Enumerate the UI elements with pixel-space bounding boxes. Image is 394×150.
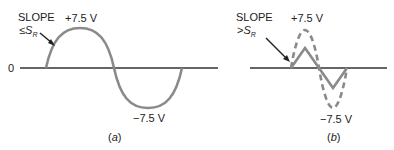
peak-positive-b: +7.5 V bbox=[291, 12, 323, 24]
slope-label-a: SLOPE bbox=[18, 11, 55, 23]
slope-condition-a: ≤SR bbox=[19, 24, 37, 41]
waveform-diagram bbox=[0, 0, 394, 150]
caption-a: (a) bbox=[108, 131, 121, 143]
peak-positive-a: +7.5 V bbox=[65, 12, 97, 24]
zero-label: 0 bbox=[8, 62, 14, 74]
peak-negative-a: −7.5 V bbox=[133, 112, 165, 124]
arrow-b bbox=[266, 38, 286, 58]
slope-condition-b: >SR bbox=[237, 24, 256, 41]
slope-label-b: SLOPE bbox=[236, 11, 273, 23]
peak-negative-b: −7.5 V bbox=[320, 113, 352, 125]
caption-b: (b) bbox=[327, 131, 340, 143]
